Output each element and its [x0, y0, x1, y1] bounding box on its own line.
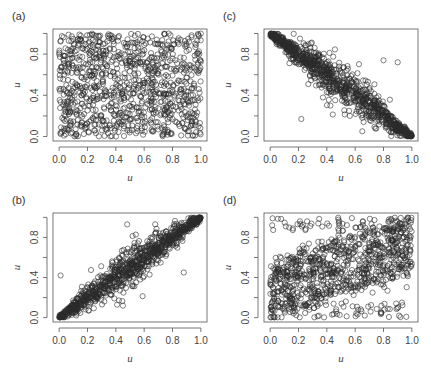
x-tick-label: 0.0 — [263, 335, 277, 346]
scatter-plot-d: 0.00.20.40.60.81.0u0.00.40.8u — [211, 184, 431, 368]
x-tick-label: 0.2 — [81, 335, 95, 346]
panel-d: (d) 0.00.20.40.60.81.0u0.00.40.8u — [211, 184, 426, 368]
x-axis: 0.00.20.40.60.81.0u — [52, 328, 208, 364]
x-tick-label: 0.4 — [109, 335, 123, 346]
y-axis-title: u — [221, 82, 233, 88]
x-tick-label: 0.2 — [81, 154, 95, 165]
x-tick-label: 0.4 — [320, 154, 334, 165]
y-axis: 0.00.40.8u — [10, 217, 47, 324]
panel-a: (a) 0.00.20.40.60.81.0u0.00.40.8u — [0, 0, 215, 184]
scatter-plot-c: 0.00.20.40.60.81.0u0.00.40.8u — [211, 0, 431, 184]
y-tick-label: 0.0 — [29, 310, 40, 324]
x-tick-label: 0.4 — [109, 154, 123, 165]
scatter-points — [268, 31, 415, 139]
x-axis: 0.00.20.40.60.81.0u — [52, 147, 208, 183]
x-tick-label: 0.0 — [263, 154, 277, 165]
y-axis: 0.00.40.8u — [221, 33, 258, 143]
y-axis: 0.00.40.8u — [10, 33, 47, 143]
x-tick-label: 0.6 — [137, 154, 151, 165]
y-axis: 0.00.40.8u — [221, 217, 258, 324]
y-tick-label: 0.8 — [240, 47, 251, 61]
x-tick-label: 1.0 — [405, 154, 419, 165]
x-tick-label: 0.2 — [292, 154, 306, 165]
x-tick-label: 0.8 — [166, 335, 180, 346]
y-axis-title: u — [10, 82, 22, 88]
y-tick-label: 0.4 — [29, 88, 40, 102]
scatter-points — [57, 31, 204, 139]
y-tick-label: 0.0 — [29, 129, 40, 143]
x-tick-label: 1.0 — [194, 335, 208, 346]
x-tick-label: 0.6 — [137, 335, 151, 346]
x-tick-label: 1.0 — [194, 154, 208, 165]
x-tick-label: 0.8 — [377, 335, 391, 346]
x-axis-title: u — [127, 171, 133, 183]
y-tick-label: 0.0 — [240, 310, 251, 324]
x-axis: 0.00.20.40.60.81.0u — [263, 147, 419, 183]
x-tick-label: 0.6 — [348, 154, 362, 165]
y-tick-label: 0.4 — [240, 270, 251, 284]
y-tick-label: 0.8 — [240, 230, 251, 244]
scatter-points — [268, 215, 415, 320]
x-tick-label: 1.0 — [405, 335, 419, 346]
x-axis-title: u — [338, 352, 344, 364]
y-axis-title: u — [10, 264, 22, 270]
x-axis: 0.00.20.40.60.81.0u — [263, 328, 419, 364]
x-tick-label: 0.0 — [52, 335, 66, 346]
x-axis-title: u — [127, 352, 133, 364]
x-tick-label: 0.2 — [292, 335, 306, 346]
x-tick-label: 0.4 — [320, 335, 334, 346]
y-tick-label: 0.0 — [240, 129, 251, 143]
y-tick-label: 0.4 — [240, 88, 251, 102]
x-tick-label: 0.8 — [166, 154, 180, 165]
scatter-plot-b: 0.00.20.40.60.81.0u0.00.40.8u — [0, 184, 215, 368]
y-axis-title: u — [221, 264, 233, 270]
scatter-points — [57, 215, 204, 320]
x-tick-label: 0.0 — [52, 154, 66, 165]
y-tick-label: 0.4 — [29, 270, 40, 284]
x-tick-label: 0.6 — [348, 335, 362, 346]
y-tick-label: 0.8 — [29, 230, 40, 244]
panel-b: (b) 0.00.20.40.60.81.0u0.00.40.8u — [0, 184, 215, 368]
scatter-plot-a: 0.00.20.40.60.81.0u0.00.40.8u — [0, 0, 215, 184]
panel-c: (c) 0.00.20.40.60.81.0u0.00.40.8u — [211, 0, 426, 184]
x-tick-label: 0.8 — [377, 154, 391, 165]
x-axis-title: u — [338, 171, 344, 183]
y-tick-label: 0.8 — [29, 47, 40, 61]
